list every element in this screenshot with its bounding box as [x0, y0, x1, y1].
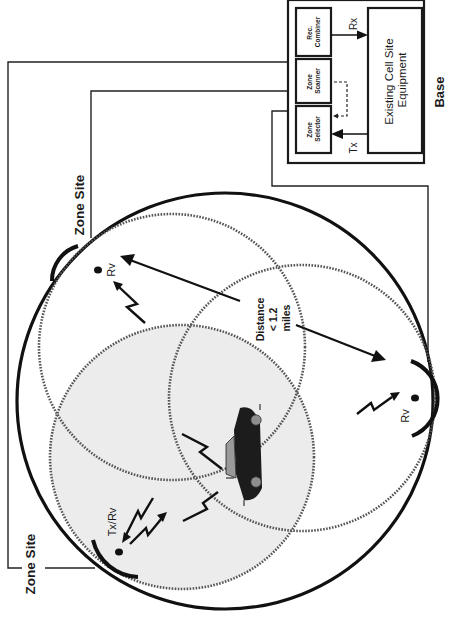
- zone-site-label-bottom: Zone Site: [23, 533, 38, 594]
- coverage-area: [17, 193, 435, 609]
- distance-arrow-down-line: [296, 325, 375, 356]
- existing-equipment-box: [368, 8, 422, 153]
- zone-site-label-top: Zone Site: [72, 174, 87, 235]
- base-label: Base: [432, 76, 447, 107]
- antenna-reflector-icon: [52, 246, 78, 281]
- tx-label: Tx: [348, 142, 359, 153]
- antenna-dot-icon: [115, 548, 123, 555]
- distance-label: Distance < 1.2 miles: [254, 295, 292, 342]
- antenna-dot-icon: [411, 394, 419, 401]
- base-station: Rec. Combiner Zone Scanner Zone Selector…: [288, 0, 447, 163]
- wire-top-zone-site: [91, 91, 288, 238]
- signal-bolt-icon: [357, 397, 392, 414]
- rx-label: Rx: [348, 18, 359, 30]
- antenna-dot-icon: [94, 266, 102, 273]
- antenna-top-label: Rv: [105, 263, 117, 277]
- antenna-bottom-left-label: Tx/Rv: [106, 507, 118, 536]
- cell-site-zone-diagram: Rec. Combiner Zone Scanner Zone Selector…: [0, 0, 457, 621]
- signal-bolt-icon: [119, 287, 145, 323]
- antenna-right-label: Rv: [399, 409, 411, 423]
- active-zone-shading: [50, 325, 314, 589]
- distance-arrow-up-line: [130, 260, 240, 301]
